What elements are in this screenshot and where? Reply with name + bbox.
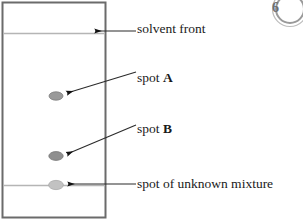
label-spot-a-name: A [163,70,173,85]
label-solvent-front-text: solvent front [137,21,206,36]
label-unknown-mixture: spot of unknown mixture [137,177,273,191]
spot-a-marker [49,92,63,100]
label-spot-b: spot B [137,122,172,136]
tlc-diagram-canvas: solvent front spot A spot B spot of unkn… [0,0,303,222]
label-spot-b-name: B [163,121,172,136]
spot-unknown-mixture-marker [49,180,64,189]
question-number-badge-text: 6 [272,0,279,16]
label-spot-b-prefix: spot [137,121,163,136]
label-spot-a: spot A [137,71,173,85]
label-unknown-mixture-text: spot of unknown mixture [137,176,273,191]
label-solvent-front: solvent front [137,22,206,36]
spot-b-marker [49,152,63,161]
label-spot-a-prefix: spot [137,70,163,85]
